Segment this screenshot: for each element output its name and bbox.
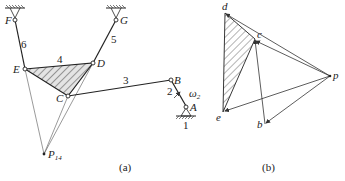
label-e: e — [216, 111, 221, 123]
joint-g — [114, 18, 118, 22]
label-p14: P14 — [47, 148, 62, 162]
joint-f — [13, 18, 17, 22]
label-c: c — [257, 28, 262, 40]
label-e: E — [12, 63, 20, 75]
joint-b — [169, 78, 173, 82]
label-a: A — [189, 101, 197, 113]
label-c: C — [56, 92, 64, 104]
joint-e — [23, 67, 27, 71]
vector-pe — [225, 76, 330, 111]
construction-line-e-p14 — [25, 69, 44, 154]
label-link-3: 3 — [123, 74, 129, 86]
label-d: d — [222, 0, 228, 12]
label-f: F — [4, 14, 12, 26]
joint-c — [66, 94, 70, 98]
instant-center-p14 — [43, 153, 46, 156]
label-link-4: 4 — [57, 53, 63, 65]
label-d: D — [96, 57, 105, 69]
link-3 — [68, 80, 171, 96]
label-g: G — [120, 14, 128, 26]
caption-a: (a) — [119, 161, 132, 174]
figure-a: F G E D C B A 6 5 4 3 2 1 ω2 P14 (a) — [4, 5, 201, 174]
joint-a — [184, 105, 188, 109]
vector-bc — [255, 40, 265, 124]
vector-pb — [266, 76, 330, 123]
label-b: B — [174, 74, 181, 86]
vector-pc — [256, 41, 330, 76]
label-link-2: 2 — [167, 85, 173, 97]
label-b: b — [257, 118, 263, 130]
caption-b: (b) — [262, 161, 275, 174]
mechanism-diagram: F G E D C B A 6 5 4 3 2 1 ω2 P14 (a) d c… — [0, 0, 345, 181]
label-link-6: 6 — [21, 38, 27, 50]
label-link-1: 1 — [183, 119, 189, 131]
label-p: p — [332, 69, 339, 81]
label-link-5: 5 — [111, 33, 117, 45]
construction-line-c-p14 — [44, 96, 68, 154]
figure-b: d c p e b (b) — [216, 0, 339, 174]
pole-p — [329, 75, 332, 78]
velocity-image-triangle — [223, 13, 255, 112]
joint-d — [91, 61, 95, 65]
label-omega: ω2 — [189, 87, 201, 101]
